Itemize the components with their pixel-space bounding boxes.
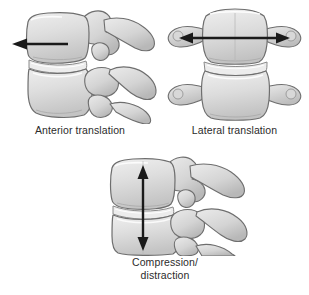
vertebra-upper-posterior-elements (165, 157, 244, 207)
vertebra-lower-body (112, 215, 179, 255)
vertebra-lower-posterior-elements (171, 209, 247, 256)
vertebra-upper-posterior-elements (80, 11, 154, 61)
vertebral-body-upper (203, 9, 268, 64)
vertebra-upper-body (27, 13, 90, 64)
panel-anterior-translation-caption: Anterior translation (0, 124, 160, 137)
vertebra-lower-posterior-elements (85, 67, 156, 124)
vertebral-body-lower (202, 71, 270, 120)
panel-anterior-translation: Anterior translation (0, 0, 160, 148)
anterior-translation-illustration (0, 0, 160, 124)
lateral-translation-illustration (160, 0, 309, 124)
panel-lateral-translation: Lateral translation (160, 0, 309, 148)
compression-distraction-illustration (70, 152, 260, 256)
panel-lateral-translation-caption: Lateral translation (160, 124, 309, 137)
panel-compression-distraction: Compression/ distraction (70, 152, 260, 295)
figure-root: Anterior translation (0, 0, 309, 295)
panel-compression-distraction-caption: Compression/ distraction (70, 256, 260, 281)
vertebra-lower-body (28, 69, 92, 117)
